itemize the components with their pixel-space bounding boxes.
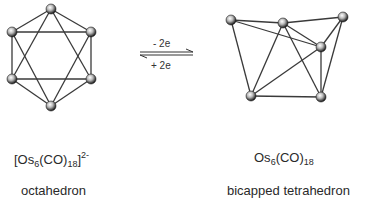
os-atom	[246, 91, 256, 101]
reduction-label: + 2e	[151, 60, 171, 71]
left-geometry-label: octahedron	[21, 183, 86, 198]
os-atom	[7, 74, 17, 84]
right-geometry-label: bicapped tetrahedron	[227, 183, 350, 198]
octahedron-atoms	[7, 4, 96, 111]
formula-subscript: 18	[304, 157, 314, 167]
os-atom	[46, 101, 56, 111]
os-atom	[338, 12, 348, 22]
bicapped-tetrahedron-atoms	[226, 12, 348, 102]
formula-part: [Os	[14, 152, 34, 167]
equilibrium-arrows	[140, 49, 193, 58]
formula-charge: 2-	[81, 150, 89, 160]
formula-subscript: 18	[67, 159, 77, 169]
formula-part: Os	[254, 150, 271, 165]
right-formula: Os6(CO)18	[254, 150, 314, 167]
os-atom	[46, 4, 56, 14]
oxidation-label: - 2e	[153, 38, 170, 49]
octahedron-bonds	[12, 9, 91, 106]
formula-part: (CO)	[39, 152, 67, 167]
bicapped-tetrahedron-bonds	[231, 17, 343, 97]
os-atom	[278, 18, 288, 28]
formula-part: (CO)	[276, 150, 304, 165]
os-atom	[226, 15, 236, 25]
os-atom	[316, 42, 326, 52]
os-atom	[316, 92, 326, 102]
os-atom	[86, 27, 96, 37]
os-atom	[7, 27, 17, 37]
os-atom	[86, 74, 96, 84]
left-formula: [Os6(CO)18]2-	[14, 150, 89, 169]
